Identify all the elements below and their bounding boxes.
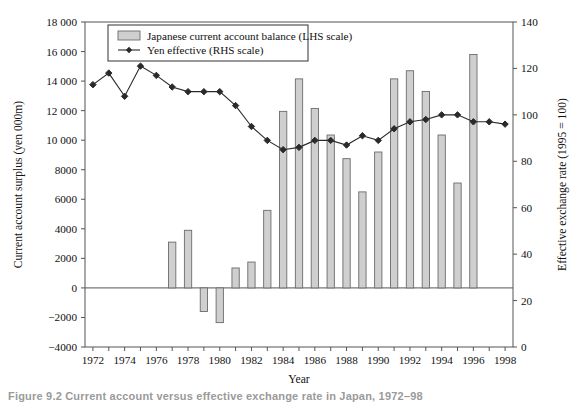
legend-label-bar: Japanese current account balance (LHS sc… xyxy=(147,30,353,43)
chart-svg: 18 00016 00014 00012 00010 0008000600040… xyxy=(0,0,578,403)
x-axis-tick-label: 1994 xyxy=(430,354,453,366)
x-axis-tick-label: 1972 xyxy=(82,354,104,366)
bar-1979 xyxy=(200,288,207,312)
figure-container: 18 00016 00014 00012 00010 0008000600040… xyxy=(0,0,578,403)
x-axis-tick-label: 1984 xyxy=(272,354,295,366)
right-axis-tick-label: 60 xyxy=(521,202,533,214)
right-axis-tick-label: 120 xyxy=(521,62,538,74)
left-axis-tick-label: 6000 xyxy=(55,193,78,205)
x-axis-tick-label: 1996 xyxy=(462,354,485,366)
right-axis-tick-label: 100 xyxy=(521,109,538,121)
bar-1986 xyxy=(311,108,318,287)
right-axis-tick-label: 140 xyxy=(521,16,538,28)
right-axis-tick-label: 0 xyxy=(521,341,527,353)
bar-1982 xyxy=(248,262,255,288)
left-axis-tick-label: 14 000 xyxy=(46,75,77,87)
left-axis-tick-label: −2000 xyxy=(48,311,77,323)
x-axis-tick-label: 1992 xyxy=(399,354,421,366)
bar-1981 xyxy=(232,268,239,288)
legend-swatch-bar xyxy=(118,31,140,40)
bar-1985 xyxy=(295,79,302,288)
bar-1996 xyxy=(470,55,477,288)
line-marker-1994 xyxy=(438,112,444,118)
right-axis-tick-label: 40 xyxy=(521,248,533,260)
x-axis-tick-label: 1988 xyxy=(335,354,358,366)
line-marker-1997 xyxy=(486,119,492,125)
left-axis-tick-label: 12 000 xyxy=(46,105,77,117)
bar-1991 xyxy=(390,79,397,288)
line-marker-1974 xyxy=(121,93,127,99)
bar-1995 xyxy=(454,183,461,288)
legend-label-line: Yen effective (RHS scale) xyxy=(147,44,264,57)
y-axis-title-right: Effective exchange rate (1995 = 100) xyxy=(556,98,569,271)
line-marker-1988 xyxy=(343,142,349,148)
left-axis-tick-label: 2000 xyxy=(55,252,78,264)
line-marker-1978 xyxy=(185,88,191,94)
x-axis-tick-label: 1976 xyxy=(145,354,168,366)
left-axis-tick-label: 0 xyxy=(71,282,77,294)
line-marker-1975 xyxy=(137,63,143,69)
bar-1983 xyxy=(264,210,271,288)
line-marker-1979 xyxy=(201,88,207,94)
bar-1994 xyxy=(438,135,445,288)
x-axis-title: Year xyxy=(288,373,310,386)
left-axis-tick-label: 18 000 xyxy=(46,16,77,28)
x-axis-tick-label: 1980 xyxy=(209,354,232,366)
bar-1988 xyxy=(343,159,350,288)
x-axis-tick-label: 1990 xyxy=(367,354,390,366)
left-axis-tick-label: 8000 xyxy=(55,164,78,176)
figure-caption: Figure 9.2 Current account versus effect… xyxy=(8,390,423,402)
left-axis-tick-label: −4000 xyxy=(48,341,77,353)
bar-1987 xyxy=(327,135,334,288)
right-axis-tick-label: 20 xyxy=(521,295,533,307)
y-axis-title-left: Current account surplus (yen 000m) xyxy=(12,101,25,269)
x-axis-tick-label: 1974 xyxy=(113,354,136,366)
left-axis-tick-label: 10 000 xyxy=(46,134,77,146)
bar-1989 xyxy=(359,192,366,288)
line-marker-1998 xyxy=(502,121,508,127)
bar-1978 xyxy=(184,230,191,288)
x-axis-tick-label: 1982 xyxy=(240,354,262,366)
x-axis-tick-label: 1978 xyxy=(177,354,200,366)
bar-1977 xyxy=(169,242,176,288)
bar-1980 xyxy=(216,288,223,323)
bar-1990 xyxy=(375,152,382,288)
left-axis-tick-label: 16 000 xyxy=(46,46,77,58)
x-axis-tick-label: 1998 xyxy=(494,354,517,366)
x-axis-tick-label: 1986 xyxy=(304,354,327,366)
line-marker-1989 xyxy=(359,133,365,139)
line-marker-1995 xyxy=(454,112,460,118)
bar-1984 xyxy=(280,111,287,288)
bar-1992 xyxy=(406,71,413,288)
right-axis-tick-label: 80 xyxy=(521,155,533,167)
left-axis-tick-label: 4000 xyxy=(55,223,78,235)
